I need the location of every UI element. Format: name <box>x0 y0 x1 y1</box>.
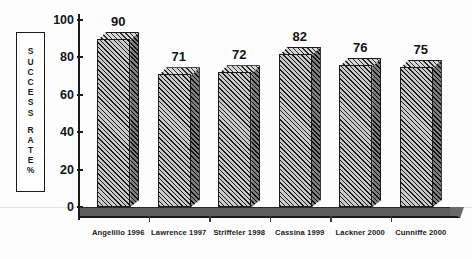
bar-value-label: 75 <box>414 42 428 57</box>
y-axis-tick-label: 80 <box>60 50 74 64</box>
y-axis-tick-mark <box>77 169 83 171</box>
bar <box>279 47 321 207</box>
bar-chart-figure: S U C C E S S R A T E % 020406080100 907… <box>0 0 472 259</box>
category-label: Lawrence 1997 <box>151 228 206 237</box>
bar-value-label: 76 <box>353 40 367 55</box>
plot-area: 020406080100 907172827675 Angelillo 1996… <box>78 14 460 220</box>
bar-front-face <box>400 67 433 207</box>
bar-side-face <box>372 58 381 207</box>
bar-side-face <box>191 67 200 207</box>
x-axis-line <box>78 216 458 218</box>
bar-value-label: 71 <box>172 49 186 64</box>
bar-front-face <box>158 74 191 207</box>
bar-front-face <box>97 39 130 207</box>
y-axis-title-char: S <box>28 109 34 119</box>
y-axis-tick-mark <box>77 94 83 96</box>
y-axis-title-char: % <box>27 166 35 176</box>
bar-side-face <box>130 32 139 207</box>
bar-value-label: 72 <box>232 47 246 62</box>
bar <box>400 60 442 207</box>
y-axis-tick-label: 40 <box>60 125 74 139</box>
y-axis-tick-mark <box>77 131 83 133</box>
y-axis-tick-label: 100 <box>53 13 74 27</box>
y-axis-tick-mark <box>77 19 83 21</box>
bar <box>158 67 200 207</box>
x-axis-tick-mark <box>391 216 393 222</box>
bar-side-face <box>251 65 260 207</box>
category-label: Cassina 1999 <box>275 228 324 237</box>
category-label: Lackner 2000 <box>336 228 385 237</box>
bar <box>97 32 139 207</box>
bar-front-face <box>218 72 251 207</box>
y-axis-title-letters: S U C C E S S R A T E % <box>27 47 35 176</box>
bar-side-face <box>433 60 442 207</box>
bar-value-label: 82 <box>293 29 307 44</box>
category-label: Striffeler 1998 <box>213 228 265 237</box>
bar-front-face <box>279 54 312 207</box>
y-axis-title-box: S U C C E S S R A T E % <box>16 32 45 192</box>
category-label: Cunniffe 2000 <box>395 228 446 237</box>
x-axis-tick-mark <box>270 216 272 222</box>
bar-side-face <box>312 47 321 207</box>
y-axis-tick-label: 20 <box>60 163 74 177</box>
y-axis-line <box>78 14 80 220</box>
x-axis-tick-mark <box>330 216 332 222</box>
y-axis-tick-mark <box>77 56 83 58</box>
bar <box>218 65 260 207</box>
y-axis-tick-label: 60 <box>60 88 74 102</box>
x-axis-tick-mark <box>149 216 151 222</box>
x-axis-tick-mark <box>209 216 211 222</box>
bar <box>339 58 381 207</box>
y-axis-tick-label: 0 <box>67 200 74 214</box>
bar-value-label: 90 <box>111 14 125 29</box>
y-axis-title-char: S <box>28 98 34 108</box>
category-label: Angelillo 1996 <box>92 228 144 237</box>
bar-front-face <box>339 65 372 207</box>
